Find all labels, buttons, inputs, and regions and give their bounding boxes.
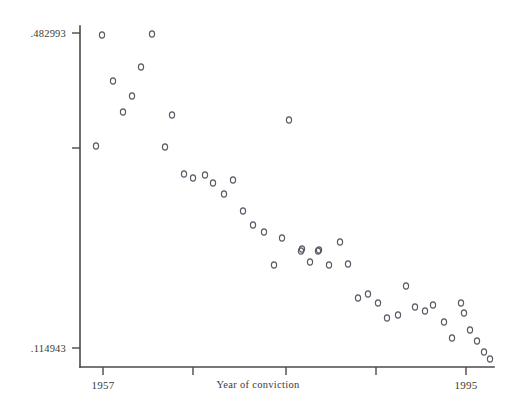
data-point [337, 239, 342, 245]
data-point [138, 64, 143, 70]
data-point [412, 304, 417, 310]
data-point [110, 78, 115, 84]
data-point [461, 310, 466, 316]
y-axis-bottom-tick-label: .114943 [31, 343, 66, 354]
data-point [481, 349, 486, 355]
data-point [365, 291, 370, 297]
data-point [345, 261, 350, 267]
data-point [240, 208, 245, 214]
data-point [403, 283, 408, 289]
data-point [279, 235, 284, 241]
data-point [250, 222, 255, 228]
data-point [190, 175, 195, 181]
data-point [162, 144, 167, 150]
data-point [169, 112, 174, 118]
data-point [458, 300, 463, 306]
data-point [120, 109, 125, 115]
data-point [326, 262, 331, 268]
data-point [375, 300, 380, 306]
data-point [181, 171, 186, 177]
plot-canvas: .482993 .114943 1957 1995 Year of convic… [0, 0, 511, 415]
data-point [422, 308, 427, 314]
data-point-group [93, 31, 492, 362]
data-point [271, 262, 276, 268]
data-point [307, 259, 312, 265]
data-point [441, 319, 446, 325]
data-point [430, 302, 435, 308]
data-point [487, 356, 492, 362]
data-point [210, 180, 215, 186]
data-point [93, 143, 98, 149]
x-axis-left-tick-label: 1957 [91, 379, 114, 391]
x-axis-right-tick-label: 1995 [454, 379, 477, 391]
data-point [202, 172, 207, 178]
data-point [474, 338, 479, 344]
data-point [384, 315, 389, 321]
scatter-plot-figure: .482993 .114943 1957 1995 Year of convic… [0, 0, 511, 415]
data-point [221, 191, 226, 197]
data-point [467, 327, 472, 333]
data-point [261, 229, 266, 235]
data-point [286, 117, 291, 123]
x-axis-title: Year of conviction [216, 379, 300, 390]
data-point [355, 295, 360, 301]
y-axis-top-tick-label: .482993 [30, 28, 66, 39]
data-point [99, 32, 104, 38]
data-point [129, 93, 134, 99]
data-point [149, 31, 154, 37]
data-point [395, 312, 400, 318]
data-point [230, 177, 235, 183]
data-point [449, 335, 454, 341]
